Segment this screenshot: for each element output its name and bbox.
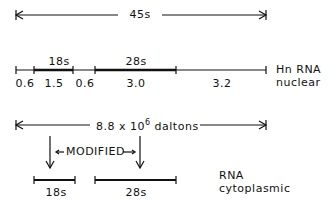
segment-value: 3.2 [213,78,232,90]
modified-label: MODIFIED [66,146,125,158]
diagram-lines [0,0,332,201]
segment-value: 0.6 [76,78,95,90]
rna-label: RNA [219,170,244,182]
cytoplasmic-label: cytoplasmic [219,183,290,195]
product-18s-label: 18s [45,187,66,199]
precursor-45s-label: 45s [129,9,150,21]
mass-label: 8.8 x 106 daltons [96,117,199,133]
segment-value: 0.6 [16,78,35,90]
nuclear-label: nuclear [276,77,321,89]
mass-value: 8.8 x 10 [96,120,145,133]
segment-18s-label: 18s [48,56,69,68]
product-28s-label: 28s [125,187,146,199]
hn-rna-label: Hn RNA [276,64,321,76]
mass-unit: daltons [151,120,199,133]
segment-28s-label: 28s [125,56,146,68]
segment-value: 3.0 [127,78,146,90]
segment-value: 1.5 [45,78,64,90]
